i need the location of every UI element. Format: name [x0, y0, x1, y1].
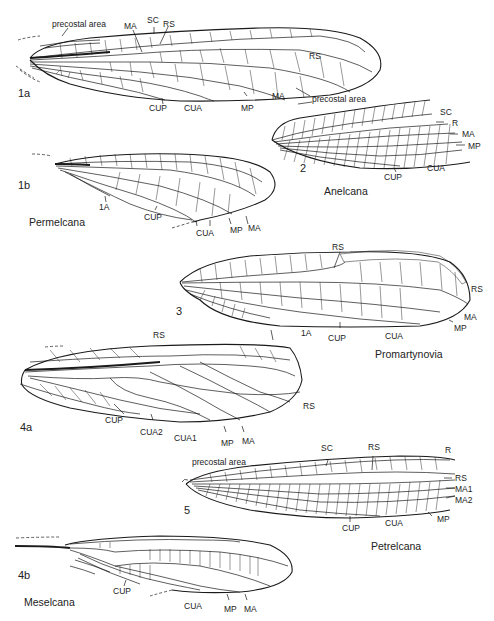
- wing-2-cup-label: CUP: [384, 173, 402, 182]
- wing-5-precostal-label: precostal area: [192, 458, 246, 467]
- wing-1a-precostal-label: precostal area: [52, 20, 106, 29]
- wing-3-rs-right-label: RS: [471, 285, 483, 294]
- wing-1b-taxon-name: Permelcana: [29, 217, 85, 228]
- wing-4b-ma-label: MA: [244, 605, 257, 614]
- wing-figure: [0, 0, 494, 621]
- wing-4a-cua1-label: CUA1: [174, 434, 197, 443]
- wing-3-number: 3: [176, 306, 182, 317]
- wing-1a-number: 1a: [18, 88, 30, 99]
- wing-5-rs-top-label: RS: [368, 443, 380, 452]
- wing-4b-cua-label: CUA: [184, 602, 202, 611]
- wing-5-taxon-name: Petrelcana: [371, 541, 421, 552]
- wing-5-ma1-label: MA1: [455, 485, 472, 494]
- wing-4a-rs-right-label: RS: [303, 402, 315, 411]
- wing-2-sc-label: SC: [440, 108, 452, 117]
- wing-1a-mp-label: MP: [241, 104, 254, 113]
- wing-5-ma2-label: MA2: [455, 496, 472, 505]
- wing-4b-mp-label: MP: [224, 605, 237, 614]
- wing-4a-ma-label: MA: [242, 437, 255, 446]
- wing-2-precostal-label: precostal area: [312, 95, 366, 104]
- wing-4a-drawing: [20, 344, 302, 422]
- wing-1a-sc-label: SC: [147, 16, 159, 25]
- wing-2-mp-label: MP: [468, 142, 481, 151]
- wing-4b-taxon-name: Meselcana: [24, 597, 75, 608]
- wing-5-rs-right-label: RS: [455, 474, 467, 483]
- wing-4b-cup-label: CUP: [113, 587, 131, 596]
- wing-4a-rs-top-label: RS: [153, 331, 165, 340]
- wing-5-mp-label: MP: [437, 515, 450, 524]
- wing-1a-drawing: [16, 28, 381, 101]
- wing-3-rs-top-label: RS: [332, 243, 344, 252]
- wing-3-taxon-name: Promartynovia: [375, 349, 443, 360]
- wing-4a-cua2-label: CUA2: [140, 428, 163, 437]
- wing-4a-cup-label: CUP: [105, 416, 123, 425]
- wing-1a-cup-label: CUP: [149, 104, 167, 113]
- wing-1a-cua-label: CUA: [184, 104, 202, 113]
- wing-1b-mp-label: MP: [230, 226, 243, 235]
- wing-1a-ma-top-label: MA: [124, 22, 137, 31]
- wing-3-drawing: [180, 250, 470, 327]
- wing-3-mp-label: MP: [454, 324, 467, 333]
- wing-2-cua-label: CUA: [427, 164, 445, 173]
- wing-1a-rs-top-label: RS: [163, 20, 175, 29]
- wing-4b-drawing: [15, 536, 292, 596]
- wing-5-sc-label: SC: [321, 444, 333, 453]
- wing-1b-cup-label: CUP: [144, 213, 162, 222]
- wing-5-cua-label: CUA: [385, 519, 403, 528]
- wing-3-cup-label: CUP: [328, 334, 346, 343]
- wing-4a-number: 4a: [20, 422, 32, 433]
- wing-2-r-label: R: [452, 119, 458, 128]
- wing-4a-mp-label: MP: [221, 439, 234, 448]
- wing-1b-cua-label: CUA: [196, 229, 214, 238]
- label-leaders: [62, 27, 465, 600]
- wing-3-1a-label: 1A: [301, 329, 311, 338]
- wing-2-taxon-name: Anelcana: [324, 186, 368, 197]
- wing-1a-ma-label: MA: [272, 92, 285, 101]
- wing-5-cup-label: CUP: [342, 524, 360, 533]
- wing-5-number: 5: [184, 505, 190, 516]
- wing-2-ma-label: MA: [462, 130, 475, 139]
- wing-3-ma-label: MA: [464, 313, 477, 322]
- wing-3-cua-label: CUA: [385, 332, 403, 341]
- wing-1b-number: 1b: [18, 180, 30, 191]
- wing-1b-1a-label: 1A: [99, 203, 109, 212]
- wing-2-number: 2: [300, 163, 306, 174]
- wing-4b-number: 4b: [18, 570, 30, 581]
- wing-5-r-label: R: [445, 446, 451, 455]
- wing-1b-ma-label: MA: [248, 224, 261, 233]
- wing-1a-rs-right-label: RS: [309, 52, 321, 61]
